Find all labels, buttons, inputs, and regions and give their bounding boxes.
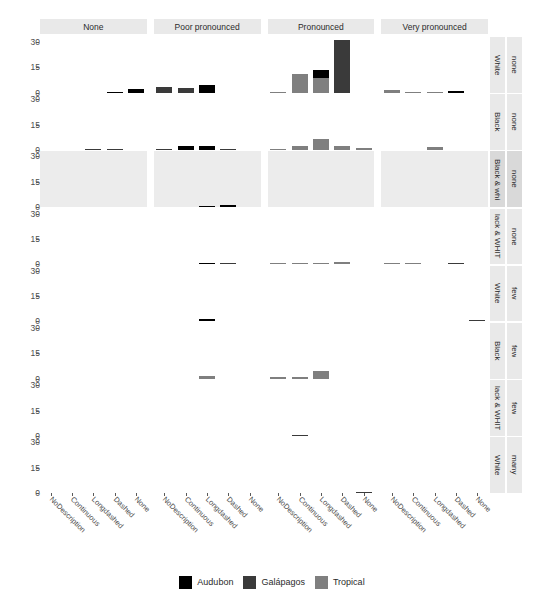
bar-Dashed[interactable] [220, 37, 236, 93]
bar-NoDescription[interactable] [384, 94, 400, 150]
panel-r3-c0[interactable] [40, 209, 147, 265]
bar-Dashed[interactable] [220, 209, 236, 265]
bar-Dashed[interactable] [334, 380, 350, 436]
bar-Dashed[interactable] [448, 266, 464, 322]
panel-r7-c3[interactable] [381, 437, 488, 493]
bar-Longdashed[interactable] [427, 266, 443, 322]
bar-None[interactable] [469, 266, 485, 322]
bar-Continuous[interactable] [64, 94, 80, 150]
bar-Dashed[interactable] [448, 37, 464, 93]
x-tick-NoDescription[interactable]: NoDescription [384, 493, 400, 563]
bar-Longdashed[interactable] [427, 380, 443, 436]
bar-NoDescription[interactable] [43, 323, 59, 379]
bar-Dashed[interactable] [334, 94, 350, 150]
x-tick-Longdashed[interactable]: Longdashed [427, 493, 443, 563]
x-tick-Continuous[interactable]: Continuous [292, 493, 308, 563]
bar-Longdashed[interactable] [85, 323, 101, 379]
bar-Continuous[interactable] [292, 151, 308, 207]
bar-NoDescription[interactable] [43, 437, 59, 493]
panel-r2-c1[interactable] [154, 151, 261, 207]
bar-Continuous[interactable] [64, 151, 80, 207]
bar-Continuous[interactable] [405, 94, 421, 150]
panel-r7-c1[interactable] [154, 437, 261, 493]
bar-Continuous[interactable] [178, 323, 194, 379]
bar-Longdashed[interactable] [199, 437, 215, 493]
x-tick-Continuous[interactable]: Continuous [64, 493, 80, 563]
bar-Longdashed[interactable] [199, 94, 215, 150]
bar-Dashed[interactable] [334, 323, 350, 379]
bar-NoDescription[interactable] [384, 380, 400, 436]
bar-Continuous[interactable] [178, 37, 194, 93]
bar-Longdashed[interactable] [427, 94, 443, 150]
bar-Continuous[interactable] [405, 380, 421, 436]
bar-None[interactable] [242, 37, 258, 93]
bar-Longdashed[interactable] [85, 37, 101, 93]
bar-Longdashed[interactable] [85, 437, 101, 493]
bar-Dashed[interactable] [107, 266, 123, 322]
bar-None[interactable] [128, 94, 144, 150]
bar-NoDescription[interactable] [156, 37, 172, 93]
panel-r1-c3[interactable] [381, 94, 488, 150]
bar-Continuous[interactable] [178, 94, 194, 150]
bar-Longdashed[interactable] [427, 209, 443, 265]
bar-NoDescription[interactable] [156, 209, 172, 265]
x-tick-None[interactable]: None [242, 493, 258, 563]
bar-NoDescription[interactable] [270, 209, 286, 265]
x-tick-Dashed[interactable]: Dashed [107, 493, 123, 563]
bar-None[interactable] [469, 437, 485, 493]
bar-None[interactable] [242, 437, 258, 493]
bar-None[interactable] [356, 380, 372, 436]
bar-Continuous[interactable] [64, 209, 80, 265]
panel-r0-c0[interactable] [40, 37, 147, 93]
bar-Continuous[interactable] [64, 266, 80, 322]
x-tick-Dashed[interactable]: Dashed [448, 493, 464, 563]
bar-Dashed[interactable] [448, 380, 464, 436]
bar-Dashed[interactable] [220, 151, 236, 207]
panel-r0-c1[interactable] [154, 37, 261, 93]
bar-None[interactable] [242, 151, 258, 207]
bar-Dashed[interactable] [220, 94, 236, 150]
bar-None[interactable] [356, 151, 372, 207]
bar-Continuous[interactable] [178, 437, 194, 493]
bar-Continuous[interactable] [64, 37, 80, 93]
bar-NoDescription[interactable] [384, 323, 400, 379]
bar-NoDescription[interactable] [156, 323, 172, 379]
bar-Continuous[interactable] [178, 209, 194, 265]
bar-NoDescription[interactable] [43, 37, 59, 93]
bar-NoDescription[interactable] [270, 323, 286, 379]
bar-None[interactable] [356, 94, 372, 150]
panel-r5-c2[interactable] [268, 323, 375, 379]
bar-Longdashed[interactable] [427, 151, 443, 207]
panel-r2-c0[interactable] [40, 151, 147, 207]
bar-Continuous[interactable] [178, 380, 194, 436]
bar-NoDescription[interactable] [384, 151, 400, 207]
x-tick-Longdashed[interactable]: Longdashed [85, 493, 101, 563]
bar-NoDescription[interactable] [156, 437, 172, 493]
bar-None[interactable] [356, 209, 372, 265]
bar-Dashed[interactable] [448, 94, 464, 150]
bar-NoDescription[interactable] [43, 151, 59, 207]
bar-Dashed[interactable] [107, 94, 123, 150]
bar-Dashed[interactable] [220, 380, 236, 436]
panel-r4-c2[interactable] [268, 266, 375, 322]
bar-NoDescription[interactable] [43, 266, 59, 322]
bar-None[interactable] [242, 94, 258, 150]
bar-Dashed[interactable] [334, 266, 350, 322]
bar-Longdashed[interactable] [85, 151, 101, 207]
bar-None[interactable] [128, 323, 144, 379]
panel-r5-c0[interactable] [40, 323, 147, 379]
bar-Dashed[interactable] [334, 151, 350, 207]
bar-Continuous[interactable] [405, 209, 421, 265]
bar-NoDescription[interactable] [270, 151, 286, 207]
panel-r4-c3[interactable] [381, 266, 488, 322]
bar-NoDescription[interactable] [156, 266, 172, 322]
panel-r5-c1[interactable] [154, 323, 261, 379]
bar-Dashed[interactable] [107, 380, 123, 436]
bar-Dashed[interactable] [448, 437, 464, 493]
bar-Longdashed[interactable] [313, 94, 329, 150]
bar-None[interactable] [469, 209, 485, 265]
panel-r2-c3[interactable] [381, 151, 488, 207]
bar-Dashed[interactable] [107, 437, 123, 493]
bar-Longdashed[interactable] [313, 37, 329, 93]
bar-Longdashed[interactable] [313, 266, 329, 322]
